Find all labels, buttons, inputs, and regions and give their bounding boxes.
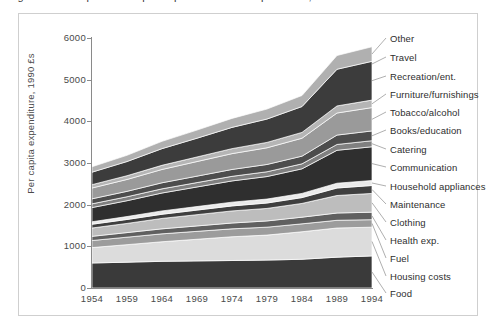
leader-line: [372, 76, 386, 81]
leader-line: [372, 164, 386, 167]
leader-line: [372, 144, 386, 149]
leader-line: [372, 242, 386, 277]
leader-line: [372, 272, 386, 293]
leader-line: [372, 130, 386, 136]
leader-line: [372, 112, 386, 119]
leader-line: [372, 57, 386, 64]
legend-leader-lines: [0, 0, 497, 331]
leader-line: [372, 38, 386, 54]
chart-figure: Figure 2.3 Composition of per capita con…: [0, 0, 497, 331]
leader-line: [372, 190, 386, 205]
leader-line: [372, 183, 386, 186]
leader-line: [372, 94, 386, 104]
